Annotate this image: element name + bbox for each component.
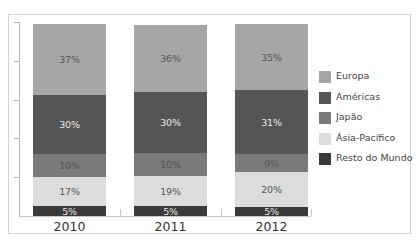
x-tick	[221, 209, 222, 216]
segment-americas: 31%	[235, 90, 308, 154]
swatch-asia-pacifico	[319, 133, 331, 145]
legend-item-asia-pacifico: Ásia-Pacífico	[319, 133, 414, 146]
x-tick	[311, 209, 312, 216]
segment-resto-do-mundo: 5%	[235, 207, 308, 216]
swatch-americas	[319, 92, 331, 104]
legend-item-americas: Américas	[319, 92, 414, 105]
segment-resto-do-mundo: 5%	[33, 206, 106, 216]
legend-item-resto-do-mundo: Resto do Mundo	[319, 153, 414, 166]
swatch-japao	[319, 112, 331, 124]
legend-label: Américas	[336, 91, 380, 102]
y-tick	[14, 22, 20, 23]
legend-item-japao: Japão	[319, 112, 414, 125]
segment-resto-do-mundo: 5%	[134, 206, 207, 216]
bar-2010: 37% 30% 10% 17% 5%	[33, 24, 106, 216]
swatch-europa	[319, 71, 331, 83]
segment-europa: 35%	[235, 24, 308, 90]
y-tick	[14, 100, 20, 101]
segment-asia-pacifico: 20%	[235, 172, 308, 207]
x-label-2012: 2012	[235, 219, 308, 234]
legend-label: Resto do Mundo	[336, 152, 412, 163]
segment-europa: 37%	[33, 24, 106, 95]
legend-item-europa: Europa	[319, 71, 414, 84]
segment-asia-pacifico: 19%	[134, 176, 207, 206]
y-tick	[14, 177, 20, 178]
x-label-2010: 2010	[33, 219, 106, 234]
x-label-2011: 2011	[134, 219, 207, 234]
y-tick	[14, 138, 20, 139]
x-tick	[120, 209, 121, 216]
y-tick	[14, 61, 20, 62]
bar-2012: 35% 31% 9% 20% 5%	[235, 24, 308, 216]
bar-2011: 36% 30% 10% 19% 5%	[134, 25, 207, 216]
legend-label: Ásia-Pacífico	[336, 132, 395, 143]
legend-label: Japão	[336, 111, 362, 122]
segment-japao: 9%	[235, 154, 308, 172]
segment-americas: 30%	[33, 95, 106, 154]
segment-japao: 10%	[33, 154, 106, 177]
swatch-resto-do-mundo	[319, 153, 331, 165]
segment-japao: 10%	[134, 153, 207, 176]
segment-asia-pacifico: 17%	[33, 177, 106, 206]
segment-europa: 36%	[134, 25, 207, 92]
legend-label: Europa	[336, 70, 369, 81]
segment-americas: 30%	[134, 92, 207, 153]
y-axis	[19, 22, 20, 216]
